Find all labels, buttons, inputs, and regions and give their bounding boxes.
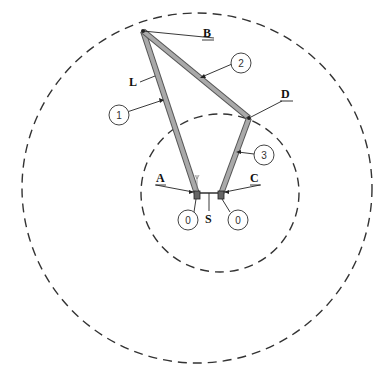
label-d: D xyxy=(281,87,290,101)
balloon-ground-left-text: 0 xyxy=(185,215,191,226)
leader-ground-right xyxy=(222,199,230,212)
label-c: C xyxy=(250,171,259,185)
leader-d xyxy=(251,101,282,117)
leader-l xyxy=(140,76,155,82)
balloon-1-text: 1 xyxy=(116,110,122,121)
label-s: S xyxy=(205,212,212,226)
label-b: B xyxy=(203,26,211,40)
link-3 xyxy=(221,118,249,194)
ground-pivot-a xyxy=(194,191,200,199)
linkage-diagram: B L 1 2 D 3 A C S 0 0 xyxy=(0,0,388,377)
balloon-2-text: 2 xyxy=(238,58,244,69)
leader-balloon-2 xyxy=(204,64,232,76)
leader-ground-left xyxy=(194,199,196,212)
leader-c xyxy=(225,185,260,192)
leader-balloon-1 xyxy=(127,100,163,112)
balloon-ground-right-text: 0 xyxy=(235,215,241,226)
label-a: A xyxy=(156,171,165,185)
balloon-3-text: 3 xyxy=(261,150,267,161)
pin-d xyxy=(247,116,251,120)
label-l: L xyxy=(129,75,137,89)
ground-pivot-c xyxy=(218,191,224,199)
leader-a xyxy=(156,185,193,192)
